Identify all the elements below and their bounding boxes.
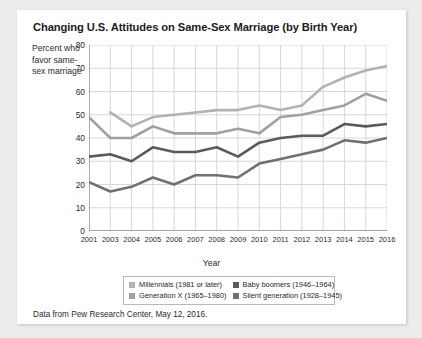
y-tick-30: 30 bbox=[67, 156, 85, 166]
legend-swatch-icon bbox=[129, 293, 135, 299]
legend-label: Silent generation (1928–1945) bbox=[243, 291, 342, 300]
series-line-0 bbox=[110, 66, 387, 126]
x-axis-title: Year bbox=[17, 258, 406, 268]
legend-item-3: Silent generation (1928–1945) bbox=[233, 291, 342, 300]
chart-legend: Millennials (1981 or later)Baby boomers … bbox=[123, 276, 335, 305]
chart-card: Changing U.S. Attitudes on Same-Sex Marr… bbox=[17, 10, 406, 324]
screenshot-root: Changing U.S. Attitudes on Same-Sex Marr… bbox=[0, 0, 422, 338]
y-tick-50: 50 bbox=[67, 110, 85, 120]
legend-label: Millennials (1981 or later) bbox=[139, 280, 222, 289]
legend-swatch-icon bbox=[233, 282, 239, 288]
page-title: Changing U.S. Attitudes on Same-Sex Marr… bbox=[33, 21, 357, 33]
plot-area bbox=[89, 45, 387, 231]
y-tick-60: 60 bbox=[67, 87, 85, 97]
line-chart-svg bbox=[89, 45, 387, 231]
y-tick-10: 10 bbox=[67, 203, 85, 213]
legend-item-2: Generation X (1965–1980) bbox=[129, 291, 227, 300]
y-tick-80: 80 bbox=[67, 40, 85, 50]
legend-label: Baby boomers (1946–1964) bbox=[243, 280, 335, 289]
y-tick-20: 20 bbox=[67, 180, 85, 190]
x-tick-2016: 2016 bbox=[375, 235, 399, 244]
legend-swatch-icon bbox=[233, 293, 239, 299]
y-tick-70: 70 bbox=[67, 63, 85, 73]
legend-label: Generation X (1965–1980) bbox=[139, 291, 227, 300]
legend-item-0: Millennials (1981 or later) bbox=[129, 280, 227, 289]
legend-item-1: Baby boomers (1946–1964) bbox=[233, 280, 342, 289]
source-note: Data from Pew Research Center, May 12, 2… bbox=[33, 310, 207, 319]
y-tick-40: 40 bbox=[67, 133, 85, 143]
legend-swatch-icon bbox=[129, 282, 135, 288]
